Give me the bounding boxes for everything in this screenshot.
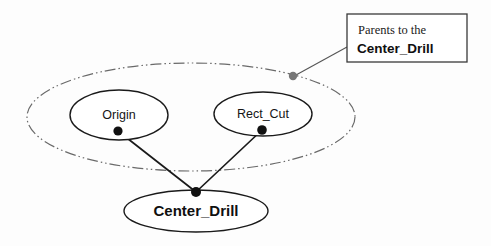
rect-cut-anchor-dot <box>257 125 267 135</box>
node-center-drill[interactable]: Center_Drill <box>124 187 268 232</box>
center-drill-label: Center_Drill <box>153 202 238 219</box>
center-drill-anchor-dot <box>191 187 201 197</box>
rect-cut-label: Rect_Cut <box>237 107 290 121</box>
callout-line-1: Parents to the <box>358 23 426 37</box>
node-origin[interactable]: Origin <box>70 90 168 140</box>
callout-target-dot <box>289 72 297 80</box>
node-rect-cut[interactable]: Rect_Cut <box>214 92 312 136</box>
edge-rect-cut-to-center-drill <box>196 130 262 192</box>
callout-line-2: Center_Drill <box>357 41 434 56</box>
callout-leader-line <box>296 47 347 75</box>
diagram-canvas: Origin Rect_Cut Center_Drill Parents to … <box>0 0 491 246</box>
relationship-diagram: Origin Rect_Cut Center_Drill Parents to … <box>0 0 491 246</box>
origin-anchor-dot <box>113 126 122 135</box>
origin-label: Origin <box>102 108 135 122</box>
callout-annotation: Parents to the Center_Drill <box>289 14 467 80</box>
